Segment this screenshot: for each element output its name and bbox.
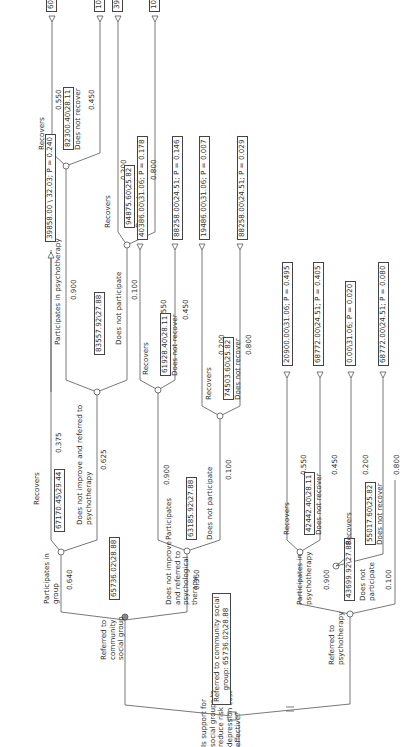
cgpn-not-recover-terminal: 108630.00\24.51; P = 0.032 [149,0,160,12]
cgpp-recovers-label: Recovers [38,117,47,150]
participates-group-value: 67170.45\29.44 [54,469,65,532]
cgpn-recovers-terminal: 39858.00\31.06; P = 0.008 [112,0,123,12]
cgpn-value: 94875.60\25.82 [124,165,135,228]
cnnr-label: Recovers [205,367,214,400]
cg-recovers-label: Recovers [33,472,42,505]
participates-group-line: group [52,553,61,604]
cn-value: 63185.92\27.88 [186,477,197,540]
psypr-terminal: 20900.00\31.06; P = 0.495 [282,262,293,366]
root-summary: Referred to community social group: 6573… [212,593,231,705]
psyn-node-value: 43699.92\27.88 [344,538,355,601]
cg-recovers-prob: 0.375 [55,432,64,453]
cgpp-not-recover-terminal: 108630.00\24.51; P = 0.162 [94,0,105,12]
psynr-prob: 0.200 [362,454,371,475]
cnpr-label: Recovers [142,342,151,375]
psyn-prob: 0.100 [385,569,394,590]
cgp-not-participate-prob: 0.100 [131,279,140,300]
cgpp-not-recover-label: Does not recover [74,88,83,150]
cnpr-terminal: 40386.00\31.06; P = 0.178 [137,136,148,240]
cnpn-prob: 0.450 [182,299,191,320]
psyn-label: Does not participate [359,562,376,601]
cnnn-prob: 0.800 [245,334,254,355]
psyn-label-line: participate [368,562,377,601]
cgpn-recovers-label: Recovers [104,195,113,228]
cnnr-terminal: 19486.00\31.06; P = 0.007 [199,136,210,240]
psynn-terminal: 68772.00\24.51; P = 0.080 [378,262,389,366]
psypn-terminal: 68772.00\24.51; P = 0.405 [313,262,324,366]
cgpp-not-recover-prob: 0.450 [88,89,97,110]
cnpn-terminal: 88258.00\24.51; P = 0.146 [172,136,183,240]
cn-prob: 0.360 [193,569,202,590]
psyp-label-line: psychotherapy [305,552,314,605]
cg-not-improve-line: psychotherapy [85,405,94,525]
cgp-not-participate-label: Does not participate [115,272,124,345]
psyn-value: 55017.60\25.82 [365,482,376,545]
psynn-label: Does not recover [376,483,385,545]
cnnn-terminal: 88258.00\24.51; P = 0.029 [237,136,248,240]
cnn-prob: 0.100 [225,459,234,480]
community-label-line: social group [117,616,126,660]
psynr-terminal: 0.00\31.06; P = 0.020 [345,281,356,366]
cnp-prob: 0.900 [163,464,172,485]
psyp-label: Participates in psychotherapy [296,552,313,605]
psypn-label: Does not recover [315,473,324,535]
cnp-label: Participates [165,498,174,540]
cgp-participates-prob: 0.900 [70,279,79,300]
psynn-prob: 0.800 [393,454,402,475]
root-question-line: effective? [234,627,243,747]
psypn-prob: 0.450 [331,454,340,475]
psy-label-line: psychotherapy [337,612,346,665]
cg-not-improve-prob: 0.625 [100,449,109,470]
psy-label: Referred to psychotherapy [328,612,345,665]
psyp-value: 42442.40\28.11 [304,472,315,535]
psyp-prob: 0.900 [323,569,332,590]
cnp-value: 61928.40\28.11 [160,313,171,376]
cgpp-value: 82300.40\28.11 [63,87,74,150]
community-value: 65736.02\28.88 [109,537,120,600]
root-summary-line: group: 65736.02\28.88 [222,596,231,702]
cnpn-label: Does not recover [171,314,180,376]
psynr-label: Recovers [345,512,354,545]
cnn-value: 74503.60\25.82 [223,337,234,400]
psypr-label: Recovers [283,502,292,535]
cnn-label: Does not participate [206,467,215,540]
community-label: Referred to community social group [100,616,126,660]
cgp-value: 83557.92\27.88 [94,292,105,355]
cgpp-recovers-terminal: 60758.00\31.06; P = 0.198 [46,0,57,12]
cg-not-improve-label: Does not improve and referred to psychot… [76,405,93,525]
participates-group-label: Participates in group [43,553,60,604]
cnnn-label: Does not recover [234,338,243,400]
participates-group-prob: 0.640 [66,569,75,590]
cgp-participates-label: Participates in psychotherapy [54,238,63,345]
cgpn-not-recover-prob: 0.800 [150,159,159,180]
cg-recovers-terminal: 39858.00 \ 32.03; P = 0.240 [45,134,56,242]
